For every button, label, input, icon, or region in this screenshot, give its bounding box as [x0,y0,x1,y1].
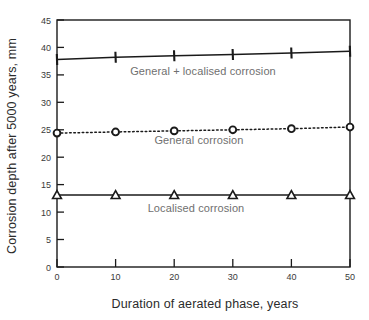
marker-circle [347,124,354,131]
marker-circle [54,130,61,137]
y-label-40: 40 [41,43,51,53]
x-axis-title: Duration of aerated phase, years [112,297,299,311]
annotation-general-plus-localised: General + localised corrosion [130,65,276,77]
x-label-10: 10 [111,272,121,282]
y-label-35: 35 [41,70,51,80]
corrosion-depth-line-chart: 45 40 35 30 25 20 15 10 5 0 0 10 20 30 4… [0,0,369,320]
y-label-5: 5 [46,235,51,245]
annotation-localised-corrosion: Localised corrosion [148,202,245,214]
y-axis-title: Corrosion depth after 5000 years, mm [5,38,19,254]
y-label-15: 15 [41,180,51,190]
y-label-20: 20 [41,153,51,163]
y-label-25: 25 [41,125,51,135]
x-label-50: 50 [345,272,355,282]
x-tick-labels: 0 10 20 30 40 50 [54,272,355,282]
y-label-10: 10 [41,208,51,218]
y-label-30: 30 [41,98,51,108]
x-label-20: 20 [169,272,179,282]
y-label-45: 45 [41,16,51,26]
marker-circle [229,126,236,133]
marker-circle [112,129,119,136]
chart-figure: 45 40 35 30 25 20 15 10 5 0 0 10 20 30 4… [0,0,369,320]
y-label-0: 0 [46,263,51,273]
x-label-40: 40 [286,272,296,282]
x-label-0: 0 [54,272,59,282]
annotation-general-corrosion: General corrosion [154,134,243,146]
x-label-30: 30 [228,272,238,282]
marker-circle [288,125,295,132]
y-tick-labels: 45 40 35 30 25 20 15 10 5 0 [41,16,51,273]
